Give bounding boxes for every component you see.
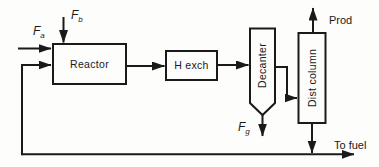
reactor-label: Reactor [70, 58, 109, 70]
flowsheet-svg: Reactor H exch Decanter Dist column Fa F… [0, 0, 379, 167]
product-label: Prod [329, 14, 352, 26]
feed-a-label: Fa [33, 24, 45, 40]
process-flow-diagram: Reactor H exch Decanter Dist column Fa F… [0, 0, 379, 167]
recycle-line [22, 65, 51, 155]
purge-g-label: Fg [238, 120, 250, 136]
decanter-outlet-line [275, 67, 297, 98]
to-fuel-label: To fuel [334, 139, 366, 151]
decanter-label: Decanter [256, 43, 268, 88]
feed-b-label: Fb [71, 8, 83, 24]
dist-column-label: Dist column [306, 49, 318, 107]
heat-exchanger-label: H exch [174, 59, 208, 71]
